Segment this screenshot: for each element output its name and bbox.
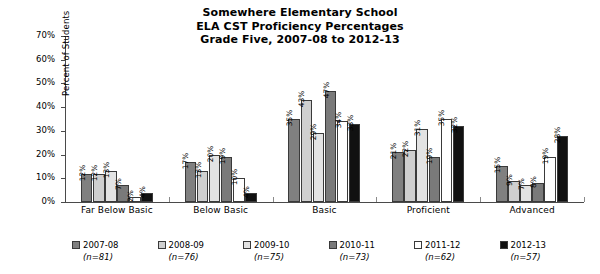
y-axis-tick-label: 50%	[36, 77, 55, 87]
bar[interactable]: 28%	[557, 136, 569, 202]
bar-value-label: 12%	[91, 164, 99, 181]
bar[interactable]: 21%	[392, 152, 404, 202]
bar[interactable]: 13%	[197, 171, 209, 202]
bar-group: 12%12%13%7%2%4%Far Below Basic	[65, 36, 169, 202]
legend-color-swatch	[414, 241, 422, 249]
category-separator	[584, 197, 585, 202]
legend-series-label: 2007-08	[83, 240, 119, 250]
bar-value-label: 20%	[207, 145, 215, 162]
bar[interactable]: 29%	[313, 133, 325, 202]
bar-value-label: 34%	[335, 112, 343, 129]
legend-color-swatch	[158, 241, 166, 249]
bar-value-label: 31%	[414, 119, 422, 136]
bar-value-label: 13%	[195, 162, 203, 179]
y-axis-tick: 0%	[61, 202, 65, 203]
bar-value-label: 7%	[518, 178, 526, 190]
legend-item[interactable]: 2012-13(n=57)	[500, 233, 600, 262]
bar-value-label: 7%	[115, 178, 123, 190]
bar[interactable]: 34%	[337, 121, 349, 202]
title-line-2: ELA CST Proficiency Percentages	[0, 20, 600, 34]
legend-color-swatch	[500, 241, 508, 249]
bar-value-label: 12%	[79, 164, 87, 181]
bar-value-label: 35%	[438, 110, 446, 127]
bar-group: 15%9%7%8%19%28%Advanced	[480, 36, 584, 202]
y-axis-tick-label: 30%	[36, 125, 55, 135]
x-axis-category-label: Far Below Basic	[65, 205, 169, 215]
legend-series-label: 2008-09	[169, 240, 205, 250]
bar-value-label: 29%	[310, 124, 318, 141]
bar[interactable]: 22%	[404, 150, 416, 202]
bar[interactable]: 32%	[453, 126, 465, 202]
bar-value-label: 21%	[390, 143, 398, 160]
legend-series-label: 2011-12	[425, 240, 461, 250]
bar-group: 21%22%31%19%35%32%Proficient	[376, 36, 480, 202]
title-line-1: Somewhere Elementary School	[0, 6, 600, 20]
bar-value-label: 15%	[494, 157, 502, 174]
bar[interactable]: 19%	[544, 157, 556, 202]
bar[interactable]: 4%	[141, 193, 153, 202]
x-axis-category-label: Below Basic	[169, 205, 273, 215]
y-axis-tick-label: 20%	[36, 149, 55, 159]
bar-group: 17%13%20%19%10%4%Below Basic	[169, 36, 273, 202]
bar[interactable]: 8%	[532, 183, 544, 202]
x-axis-category-label: Advanced	[480, 205, 584, 215]
bar-group: 35%43%29%47%34%33%Basic	[273, 36, 377, 202]
bar[interactable]: 2%	[129, 197, 141, 202]
x-axis-category-label: Proficient	[376, 205, 480, 215]
y-axis-tick-label: 60%	[36, 54, 55, 64]
bar-value-label: 32%	[451, 117, 459, 134]
legend-series-label: 2009-10	[254, 240, 290, 250]
bar-value-label: 10%	[231, 169, 239, 186]
bar-value-label: 43%	[298, 91, 306, 108]
bar-value-label: 47%	[323, 81, 331, 98]
x-axis-line	[65, 202, 584, 203]
y-axis-tick-label: 0%	[42, 196, 56, 206]
chart-legend: 2007-08(n=81)2008-09(n=76)2009-10(n=75)2…	[0, 233, 600, 273]
chart-plot-area: 0%10%20%30%40%50%60%70% Percent of Stude…	[65, 36, 584, 202]
bar-value-label: 4%	[139, 186, 147, 198]
bar[interactable]: 31%	[416, 129, 428, 203]
bar[interactable]: 47%	[325, 91, 337, 202]
y-axis-tick-label: 10%	[36, 172, 55, 182]
y-axis-tick-label: 70%	[36, 30, 55, 40]
bar-value-label: 28%	[554, 126, 562, 143]
y-axis-tick-label: 40%	[36, 101, 55, 111]
legend-color-swatch	[329, 241, 337, 249]
x-axis-category-label: Basic	[273, 205, 377, 215]
bar-value-label: 33%	[347, 114, 355, 131]
bar-value-label: 19%	[542, 148, 550, 165]
bar-value-label: 19%	[219, 148, 227, 165]
bar-value-label: 17%	[182, 152, 190, 169]
bar-value-label: 22%	[402, 141, 410, 158]
legend-color-swatch	[72, 241, 80, 249]
bar-value-label: 19%	[426, 148, 434, 165]
bar-value-label: 9%	[506, 174, 514, 186]
bar[interactable]: 43%	[301, 100, 313, 202]
bar[interactable]: 35%	[288, 119, 300, 202]
bar-value-label: 8%	[530, 176, 538, 188]
bar[interactable]: 19%	[429, 157, 441, 202]
bar[interactable]: 33%	[349, 124, 361, 202]
legend-series-label: 2010-11	[340, 240, 376, 250]
legend-sample-size: (n=57)	[511, 252, 600, 262]
legend-series-label: 2012-13	[511, 240, 547, 250]
legend-color-swatch	[243, 241, 251, 249]
bar-value-label: 2%	[127, 190, 135, 202]
bar-value-label: 13%	[103, 162, 111, 179]
bar[interactable]: 4%	[245, 193, 257, 202]
bar-value-label: 4%	[243, 186, 251, 198]
bar-value-label: 35%	[286, 110, 294, 127]
